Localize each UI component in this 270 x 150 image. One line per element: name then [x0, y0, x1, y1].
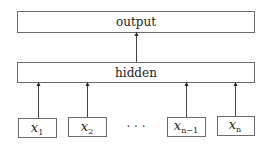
- arrow-xn-to-hidden: [234, 82, 238, 116]
- arrow-xn-1-to-hidden: [185, 82, 189, 117]
- hidden-layer: hidden: [18, 63, 255, 83]
- input-node-xn-1: xn−1: [168, 118, 206, 137]
- output-layer: output: [18, 12, 255, 33]
- arrow-hidden-to-output: [135, 32, 139, 63]
- network-diagram: output hidden x1 x2 · · · xn−1: [0, 0, 270, 150]
- output-label: output: [116, 15, 156, 29]
- input-node-x1: x1: [19, 119, 57, 138]
- ellipsis: · · ·: [126, 120, 145, 134]
- arrow-x1-to-hidden: [37, 82, 41, 118]
- hidden-label: hidden: [115, 66, 157, 80]
- input-node-xn: xn: [218, 117, 255, 136]
- arrow-x2-to-hidden: [86, 82, 90, 117]
- input-node-x2: x2: [69, 118, 107, 137]
